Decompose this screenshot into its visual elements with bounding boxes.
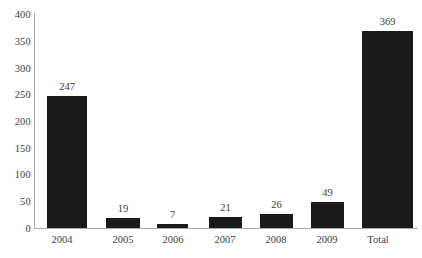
- bar[interactable]: [209, 217, 242, 228]
- bar-slot[interactable]: 19: [106, 14, 140, 228]
- bar-value-label: 369: [380, 17, 396, 28]
- bar[interactable]: [260, 214, 293, 228]
- bar-value-label: 21: [220, 203, 231, 214]
- bar-slot[interactable]: 26: [260, 14, 293, 228]
- y-axis-tick-label: 400: [1, 10, 31, 21]
- bar[interactable]: [106, 218, 140, 228]
- bar-chart: 400 350 300 250 200 150 100 50 0 247 19 …: [0, 0, 422, 258]
- bar-slot[interactable]: 247: [47, 14, 87, 228]
- bar-slot[interactable]: 21: [209, 14, 242, 228]
- bar[interactable]: [362, 31, 413, 228]
- y-axis-tick-label: 50: [1, 197, 31, 208]
- y-axis-tick-label: 250: [1, 90, 31, 101]
- y-axis-tick-label: 300: [1, 64, 31, 75]
- x-axis-category-label: 2009: [302, 234, 352, 245]
- y-axis-tick-label: 100: [1, 170, 31, 181]
- y-axis-tick-label: 150: [1, 144, 31, 155]
- x-axis-category-label: 2008: [251, 234, 301, 245]
- y-axis-tick-label: 350: [1, 37, 31, 48]
- bar[interactable]: [47, 96, 87, 228]
- bar-slot[interactable]: 49: [311, 14, 344, 228]
- bar-value-label: 49: [322, 188, 333, 199]
- bar[interactable]: [311, 202, 344, 228]
- x-axis-line: [34, 228, 418, 229]
- y-axis-tick-label: 0: [1, 224, 31, 235]
- bar-value-label: 26: [271, 200, 282, 211]
- x-axis-category-label: 2004: [37, 234, 87, 245]
- bar[interactable]: [157, 224, 188, 228]
- bar-value-label: 19: [118, 204, 129, 215]
- x-axis-category-label: 2006: [148, 234, 198, 245]
- bar-value-label: 7: [170, 210, 175, 221]
- bar-value-label: 247: [59, 82, 75, 93]
- y-axis-tick-labels: 400 350 300 250 200 150 100 50 0: [0, 0, 31, 258]
- plot-area: 247 19 7 21 26 49 369: [35, 14, 418, 228]
- x-axis-category-label: 2005: [98, 234, 148, 245]
- bar-slot[interactable]: 7: [157, 14, 188, 228]
- bar-slot[interactable]: 369: [362, 14, 413, 228]
- x-axis-category-label: 2007: [200, 234, 250, 245]
- x-axis-category-label: Total: [353, 234, 403, 245]
- y-axis-tick-label: 200: [1, 117, 31, 128]
